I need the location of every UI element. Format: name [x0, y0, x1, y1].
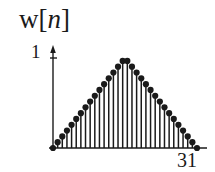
stem-marker	[68, 122, 74, 128]
stem-marker	[106, 75, 112, 81]
stem-marker	[78, 110, 84, 116]
stem-marker	[129, 64, 135, 70]
stem-marker	[124, 58, 130, 64]
stem-plot-canvas	[0, 0, 215, 172]
stem-marker	[115, 64, 121, 70]
stem-marker	[87, 98, 93, 104]
y-axis-arrowhead	[50, 45, 56, 53]
stem-series	[50, 58, 200, 151]
stem-marker	[59, 133, 65, 139]
stem-marker	[96, 87, 102, 93]
stem-marker	[55, 139, 61, 145]
stem-marker	[92, 93, 98, 99]
stem-marker	[152, 93, 158, 99]
stem-marker	[171, 116, 177, 122]
stem-plot-figure: w[n] 1 31	[0, 0, 215, 172]
stem-marker	[73, 116, 79, 122]
stem-marker	[64, 127, 70, 133]
stem-marker	[175, 122, 181, 128]
stem-marker	[147, 87, 153, 93]
stem-marker	[166, 110, 172, 116]
stem-marker	[185, 133, 191, 139]
stem-marker	[189, 139, 195, 145]
stem-marker	[110, 69, 116, 75]
stem-marker	[180, 127, 186, 133]
stem-marker	[194, 145, 200, 151]
stem-marker	[101, 81, 107, 87]
stem-marker	[157, 98, 163, 104]
stem-marker	[50, 145, 56, 151]
stem-marker	[138, 75, 144, 81]
stem-marker	[161, 104, 167, 110]
stem-marker	[143, 81, 149, 87]
stem-marker	[82, 104, 88, 110]
stem-marker	[134, 69, 140, 75]
